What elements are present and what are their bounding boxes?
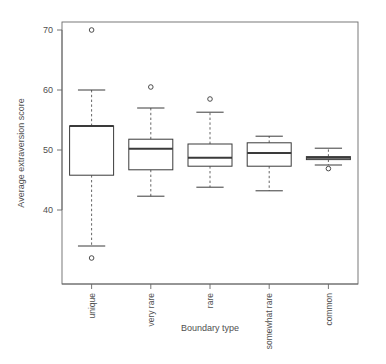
x-axis-title: Boundary type bbox=[181, 323, 239, 333]
x-tick-label-rare: rare bbox=[205, 293, 215, 308]
y-tick-label: 40 bbox=[43, 205, 53, 215]
x-tick-label-somewhat-rare: somewhat rare bbox=[264, 293, 274, 349]
figure-container: 40506070 uniquevery rareraresomewhat rar… bbox=[0, 0, 386, 364]
y-tick-label: 50 bbox=[43, 145, 53, 155]
y-tick-label: 60 bbox=[43, 85, 53, 95]
boxplot-chart: 40506070 uniquevery rareraresomewhat rar… bbox=[0, 0, 386, 364]
box-rect bbox=[188, 144, 232, 166]
x-tick-label-very-rare: very rare bbox=[146, 293, 156, 327]
box-rect bbox=[70, 126, 114, 175]
box-rect bbox=[247, 143, 291, 166]
y-tick-label: 70 bbox=[43, 25, 53, 35]
box-rect bbox=[129, 139, 173, 170]
y-axis-title: Average extraversion score bbox=[16, 98, 26, 207]
x-tick-label-unique: unique bbox=[87, 293, 97, 319]
x-tick-label-common: common bbox=[324, 293, 334, 326]
